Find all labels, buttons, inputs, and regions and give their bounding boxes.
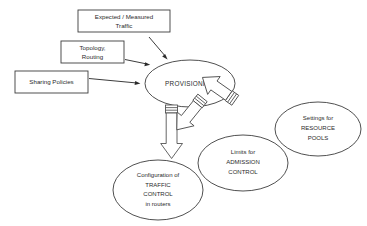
- resource-pools-label-line3: POOLS: [308, 135, 329, 141]
- input-box-sharing-policies: Sharing Policies: [15, 71, 88, 93]
- diagram-canvas: Expected / Measured Traffic Topology, Ro…: [0, 0, 367, 226]
- provisioning-diagram: Expected / Measured Traffic Topology, Ro…: [0, 0, 367, 226]
- block-arrow-to-traffic-control: [161, 105, 183, 159]
- input-box-expected-measured-traffic: Expected / Measured Traffic: [78, 10, 170, 32]
- arrow-topology-head: [144, 62, 150, 66]
- arrow-sharing-policies-line: [89, 79, 137, 84]
- admission-control-label-line1: Limits for: [231, 149, 255, 155]
- arrow-topology-to-provisioning: [125, 60, 150, 67]
- node-provisioning: PROVISIONING: [145, 60, 235, 107]
- admission-control-label-line3: CONTROL: [228, 169, 258, 175]
- sharing-policies-label: Sharing Policies: [29, 78, 73, 85]
- traffic-control-label-line1: Configuration of: [137, 172, 180, 178]
- node-admission-control: Limits for ADMISSION CONTROL: [198, 135, 288, 191]
- arrow-expected-traffic-line: [149, 37, 166, 57]
- admission-control-label-line2: ADMISSION: [226, 159, 260, 165]
- resource-pools-label-line2: RESOURCE: [301, 125, 335, 131]
- expected-measured-traffic-label-line1: Expected / Measured: [95, 13, 154, 20]
- traffic-control-ellipse: [113, 160, 203, 220]
- arrow-expected-traffic-to-provisioning: [149, 37, 168, 60]
- arrow-sharing-policies-head: [135, 81, 141, 85]
- traffic-control-label-line4: in routers: [145, 201, 170, 207]
- input-box-topology-routing: Topology, Routing: [61, 41, 124, 63]
- traffic-control-label-line3: CONTROL: [143, 191, 173, 197]
- arrow-expected-traffic-head: [162, 54, 167, 60]
- arrow-sharing-policies-to-provisioning: [89, 79, 140, 86]
- node-resource-pools: Settings for RESOURCE POOLS: [275, 102, 361, 156]
- arrow-topology-line: [125, 60, 147, 65]
- expected-measured-traffic-label-line2: Traffic: [116, 22, 133, 29]
- topology-routing-label-line2: Routing: [82, 53, 104, 60]
- node-traffic-control: Configuration of TRAFFIC CONTROL in rout…: [113, 160, 203, 220]
- traffic-control-arrow-tail: [166, 105, 178, 113]
- traffic-control-label-line2: TRAFFIC: [145, 182, 171, 188]
- resource-pools-label-line1: Settings for: [303, 115, 333, 121]
- topology-routing-label-line1: Topology,: [79, 44, 105, 51]
